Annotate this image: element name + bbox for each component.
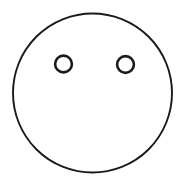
face-drawing: [0, 0, 186, 186]
canvas-background: [0, 0, 186, 186]
drawing-canvas: Simple line drawing of a face: a large o…: [0, 0, 186, 186]
